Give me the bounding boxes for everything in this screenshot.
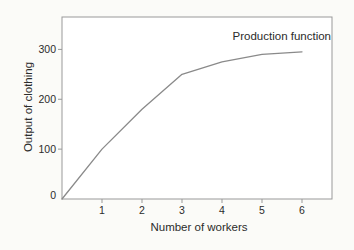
y-axis-title: Output of clothing [22,62,34,152]
x-tick-label-3: 3 [172,204,192,217]
x-tick-label-4: 4 [212,204,232,217]
x-tick-label-5: 5 [252,204,272,217]
production-function-chart: 0100200300 123456 Output of clothing Num… [0,0,354,250]
x-tick-label-6: 6 [292,204,312,217]
x-tick-label-2: 2 [132,204,152,217]
y-tick-label-300: 300 [24,43,56,56]
series-annotation-label: Production function [230,30,331,42]
x-axis-title: Number of workers [150,221,247,233]
y-tick-label-0: 0 [24,189,56,202]
plot-frame [62,17,332,199]
x-tick-label-1: 1 [92,204,112,217]
